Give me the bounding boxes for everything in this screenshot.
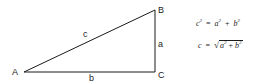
equals-sign: = bbox=[206, 41, 211, 50]
vertex-label-b: B bbox=[158, 5, 164, 15]
side-label-a: a bbox=[158, 39, 163, 49]
side-label-c: c bbox=[83, 29, 88, 39]
equals-sign: = bbox=[206, 19, 211, 28]
side-label-b: b bbox=[89, 73, 94, 83]
square-root: √a2+b2 bbox=[214, 40, 242, 50]
exponent: 2 bbox=[219, 18, 222, 23]
vertex-label-c: C bbox=[158, 70, 165, 80]
plus-sign: + bbox=[229, 41, 234, 50]
plus-sign: + bbox=[225, 19, 230, 28]
side-c-hypotenuse bbox=[24, 10, 155, 72]
formula-c: c bbox=[198, 41, 202, 50]
hypotenuse-formula: c = √a2+b2 bbox=[198, 40, 243, 50]
vertex-label-a: A bbox=[12, 67, 18, 77]
exponent: 2 bbox=[238, 18, 241, 23]
exponent: 2 bbox=[200, 18, 203, 23]
exponent: 2 bbox=[224, 40, 227, 45]
pythagorean-formula: c2 = a2 + b2 bbox=[196, 19, 240, 28]
radicand: a2+b2 bbox=[219, 40, 243, 50]
exponent: 2 bbox=[239, 40, 242, 45]
